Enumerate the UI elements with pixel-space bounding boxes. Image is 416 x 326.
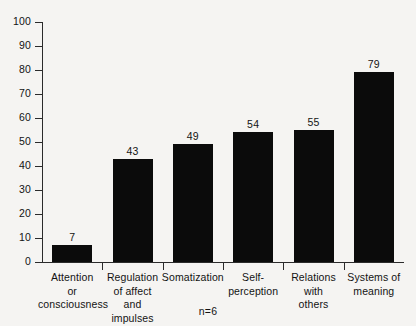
- x-axis-category-label: Self-perception: [219, 271, 287, 298]
- y-axis-tick-label: 40: [0, 159, 31, 172]
- bar-value-label: 49: [163, 130, 223, 142]
- x-axis-separator-tick: [102, 262, 103, 270]
- y-axis-tick: [35, 214, 42, 215]
- category-label-line: Relations: [279, 271, 347, 285]
- bar-value-label: 54: [223, 118, 283, 130]
- category-label-line: perception: [219, 285, 287, 299]
- y-axis-tick-label: 100: [0, 15, 31, 28]
- y-axis-tick: [35, 166, 42, 167]
- category-label-line: meaning: [340, 285, 408, 299]
- y-axis-tick-label: 80: [0, 63, 31, 76]
- y-axis-tick-label: 20: [0, 207, 31, 220]
- bar-chart: 0102030405060708090100 74349545579 Atten…: [0, 0, 416, 326]
- y-axis-tick: [35, 94, 42, 95]
- bar: [354, 72, 394, 262]
- x-axis-separator-tick: [344, 262, 345, 270]
- y-axis-tick: [35, 118, 42, 119]
- y-axis-tick-label: 50: [0, 135, 31, 148]
- y-axis-tick: [35, 238, 42, 239]
- bar: [173, 144, 213, 262]
- category-label-line: Systems of: [340, 271, 408, 285]
- category-label-line: of affect: [98, 285, 166, 299]
- y-axis-tick: [35, 262, 42, 263]
- bar-value-label: 79: [344, 58, 404, 70]
- y-axis-tick-label: 70: [0, 87, 31, 100]
- y-axis-tick: [35, 70, 42, 71]
- bar: [233, 132, 273, 262]
- bar: [52, 245, 92, 262]
- y-axis-tick: [35, 22, 42, 23]
- category-label-line: or: [38, 285, 106, 299]
- bar: [294, 130, 334, 262]
- x-axis-separator-tick: [283, 262, 284, 270]
- category-label-line: Attention: [38, 271, 106, 285]
- bar: [113, 159, 153, 262]
- sample-size-note: n=6: [0, 305, 416, 318]
- category-label-line: Somatization: [159, 271, 227, 285]
- category-label-line: with: [279, 285, 347, 299]
- bar-value-label: 7: [42, 231, 102, 243]
- x-axis-category-label: Somatization: [159, 271, 227, 285]
- y-axis-tick-label: 10: [0, 231, 31, 244]
- bar-value-label: 55: [283, 116, 343, 128]
- y-axis-tick-label: 60: [0, 111, 31, 124]
- x-axis-separator-tick: [223, 262, 224, 270]
- y-axis-tick: [35, 190, 42, 191]
- y-axis-tick-label: 90: [0, 39, 31, 52]
- bar-value-label: 43: [102, 145, 162, 157]
- y-axis-tick: [35, 46, 42, 47]
- x-axis-category-label: Systems ofmeaning: [340, 271, 408, 298]
- x-axis-separator-tick: [163, 262, 164, 270]
- y-axis-tick-label: 0: [0, 255, 31, 268]
- y-axis-tick-label: 30: [0, 183, 31, 196]
- y-axis-tick: [35, 142, 42, 143]
- category-label-line: Self-: [219, 271, 287, 285]
- category-label-line: Regulation: [98, 271, 166, 285]
